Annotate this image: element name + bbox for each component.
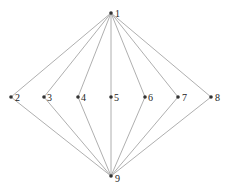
node-4: 4 xyxy=(76,92,86,103)
edge-1-3 xyxy=(44,13,111,97)
node-label: 3 xyxy=(47,92,52,103)
node-8: 8 xyxy=(209,92,220,103)
edge-6-9 xyxy=(111,97,145,176)
nodes-group: 123456789 xyxy=(9,8,220,184)
node-dot xyxy=(76,95,80,99)
node-6: 6 xyxy=(143,92,153,103)
node-2: 2 xyxy=(9,92,20,103)
node-label: 9 xyxy=(115,173,120,184)
node-dot xyxy=(176,95,180,99)
edge-2-9 xyxy=(11,97,111,176)
node-3: 3 xyxy=(42,92,52,103)
edge-1-6 xyxy=(111,13,145,97)
edge-1-7 xyxy=(111,13,178,97)
node-dot xyxy=(42,95,46,99)
node-7: 7 xyxy=(176,92,187,103)
node-label: 2 xyxy=(15,92,20,103)
node-label: 1 xyxy=(115,8,120,19)
node-dot xyxy=(109,174,113,178)
edge-1-2 xyxy=(11,13,111,97)
edge-3-9 xyxy=(44,97,111,176)
node-label: 4 xyxy=(81,92,86,103)
node-dot xyxy=(109,95,113,99)
edge-7-9 xyxy=(111,97,178,176)
node-label: 8 xyxy=(215,92,220,103)
node-9: 9 xyxy=(109,173,120,184)
edge-8-9 xyxy=(111,97,211,176)
node-label: 6 xyxy=(148,92,153,103)
node-dot xyxy=(209,95,213,99)
edge-4-9 xyxy=(78,97,111,176)
edge-1-8 xyxy=(111,13,211,97)
node-label: 5 xyxy=(114,92,119,103)
node-dot xyxy=(9,95,13,99)
edge-1-4 xyxy=(78,13,111,97)
edges-group xyxy=(11,13,211,176)
node-dot xyxy=(109,11,113,15)
node-dot xyxy=(143,95,147,99)
hasse-diagram: 123456789 xyxy=(0,0,230,185)
node-label: 7 xyxy=(182,92,187,103)
